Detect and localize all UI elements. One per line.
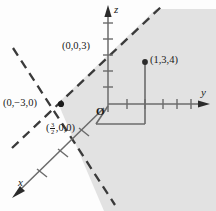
fraction-denominator: 2 (50, 128, 55, 136)
y-intercept-label: (0,−3,0) (3, 98, 37, 109)
x-intercept-fraction: 32 (50, 122, 55, 137)
figure-3d-coordinate-plane: (0,0,3) (0,−3,0) (32,0,0) (1,3,4) O z y … (0, 0, 216, 211)
y-intercept-marker (58, 101, 64, 107)
point-label: (1,3,4) (150, 55, 178, 66)
y-axis-label: y (201, 87, 206, 98)
origin-label: O (96, 106, 105, 117)
point-marker (142, 59, 148, 65)
x-intercept-label: (32,0,0) (46, 121, 75, 136)
x-intercept-suffix: ,0,0) (56, 122, 75, 133)
x-intercept-paren-open: ( (46, 122, 50, 133)
x-axis-label: x (18, 177, 23, 188)
z-intercept-label: (0,0,3) (62, 41, 90, 52)
fraction-numerator: 3 (50, 122, 55, 129)
z-axis-arrowhead (104, 5, 111, 17)
z-axis-label: z (114, 4, 118, 15)
